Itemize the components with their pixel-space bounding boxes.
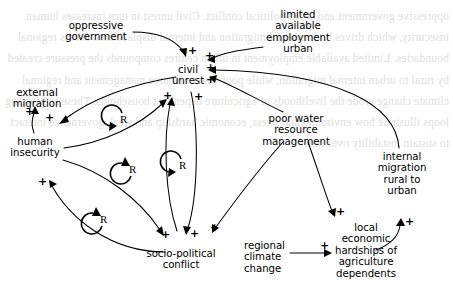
polarity-sign-regional-climate-change-local-economic-hardships: + <box>320 240 329 251</box>
node-label-line: urban <box>259 43 337 54</box>
edge-socio-political-conflict-to-civil-unrest <box>166 97 177 231</box>
node-label-line: external <box>6 87 68 98</box>
edge-poor-water-to-socio-political-conflict <box>212 142 283 233</box>
node-label-line: socio-political <box>143 248 219 259</box>
node-limited-available-employment-urban[interactable]: limited available employment urban <box>259 9 337 55</box>
node-label-line: migration <box>6 98 68 109</box>
node-label-line: available <box>259 20 337 31</box>
causal-loop-diagram: oppressive government and socio-politica… <box>0 0 453 303</box>
node-label-line: government <box>58 31 134 42</box>
node-label-line: limited <box>259 9 337 20</box>
node-label-line: insecurity <box>5 147 65 158</box>
node-label-line: unrest <box>166 75 210 86</box>
node-label-line: climate <box>244 251 290 262</box>
node-label-line: management <box>259 136 333 147</box>
node-label-line: oppressive <box>58 20 134 31</box>
node-label-line: local <box>331 222 401 233</box>
node-label-line: urban <box>373 185 431 196</box>
loop-r2-ring <box>110 157 131 184</box>
node-label-line: dependents <box>331 268 401 279</box>
polarity-sign-poor-water-local-economic-hardships: + <box>336 206 345 217</box>
polarity-sign-civil-unrest-human-insecurity: + <box>45 112 54 123</box>
node-poor-water-resource-management[interactable]: poor water resource management <box>259 113 333 147</box>
polarity-sign-human-insecurity-civil-unrest: + <box>163 90 172 101</box>
polarity-sign-limited-employment-civil-unrest: + <box>205 50 214 61</box>
edge-limited-employment-to-civil-unrest <box>207 47 263 63</box>
node-internal-migration-rural-to-urban[interactable]: internal migration rural to urban <box>373 151 431 197</box>
node-label-line: regional <box>244 240 290 251</box>
node-external-migration[interactable]: external migration <box>6 87 68 110</box>
node-regional-climate-change[interactable]: regional climate change <box>244 240 290 274</box>
polarity-sign-poor-water-socio-political-conflict: + <box>210 222 219 233</box>
loop-label-r2: R <box>129 164 136 175</box>
polarity-sign-oppressive-government-civil-unrest: + <box>188 45 197 56</box>
node-label-line: agriculture <box>331 256 401 267</box>
edge-poor-water-to-local-economic-hardships <box>308 142 336 217</box>
node-human-insecurity[interactable]: human insecurity <box>5 136 65 159</box>
polarity-sign-socio-political-conflict-civil-unrest: + <box>194 91 203 102</box>
node-label-line: resource <box>259 124 333 135</box>
node-label-line: economic <box>331 233 401 244</box>
edge-oppressive-government-to-civil-unrest <box>133 32 187 57</box>
node-label-line: conflict <box>143 259 219 270</box>
edge-civil-unrest-to-human-insecurity <box>59 77 176 124</box>
loop-r3-ring <box>160 151 181 177</box>
loop-label-r4: R <box>100 214 107 225</box>
node-label-line: civil <box>166 64 210 75</box>
polarity-sign-human-insecurity-socio-political-conflict: + <box>161 229 170 240</box>
node-civil-unrest[interactable]: civil unrest <box>166 64 210 87</box>
node-socio-political-conflict[interactable]: socio-political conflict <box>143 248 219 271</box>
node-oppressive-government[interactable]: oppressive government <box>58 20 134 43</box>
loop-label-r1: R <box>120 114 127 125</box>
polarity-sign-human-insecurity-external-migration: + <box>25 106 34 117</box>
node-label-line: employment <box>259 32 337 43</box>
node-label-line: internal <box>373 151 431 162</box>
node-label-line: migration <box>373 162 431 173</box>
node-label-line: human <box>5 136 65 147</box>
polarity-sign-local-economic-hardships-internal-migration: + <box>405 216 414 227</box>
node-label-line: hardships of <box>331 245 401 256</box>
loop-r4-ring <box>81 207 102 234</box>
edge-human-insecurity-to-socio-political-conflict <box>63 160 164 236</box>
node-label-line: poor water <box>259 113 333 124</box>
loop-label-r3: R <box>179 160 186 171</box>
polarity-sign-poor-water-civil-unrest: + <box>206 74 215 85</box>
loop-r1-ring <box>101 105 122 131</box>
edge-poor-water-to-civil-unrest <box>209 75 283 112</box>
polarity-sign-socio-political-conflict-human-insecurity: + <box>38 176 47 187</box>
node-label-line: change <box>244 263 290 274</box>
polarity-sign-civil-unrest-socio-political-conflict: + <box>190 228 199 239</box>
polarity-sign-internal-migration-civil-unrest: + <box>206 62 215 73</box>
node-local-economic-hardships[interactable]: local economic hardships of agriculture … <box>331 222 401 279</box>
node-label-line: rural to <box>373 174 431 185</box>
